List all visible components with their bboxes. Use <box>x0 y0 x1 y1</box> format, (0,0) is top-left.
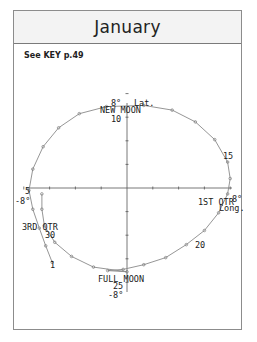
day-15-label: 15 <box>223 151 233 161</box>
day-1-label: 1 <box>50 260 55 270</box>
day-30-label: 30 <box>45 230 55 240</box>
x-left-tick-label: -8° <box>15 196 30 206</box>
first-quarter-label: 1ST QTR <box>198 197 235 207</box>
day-20-label: 20 <box>195 240 205 250</box>
moon-path-chart: 8° Lat. -8° -8° 8° Long. NEW MOON 10 1ST… <box>0 0 257 342</box>
day-5-label: 5 <box>25 186 30 196</box>
day-10-label: 10 <box>111 114 121 124</box>
y-bottom-tick-label: -8° <box>108 290 123 300</box>
day-25-label: 25 <box>113 281 123 291</box>
